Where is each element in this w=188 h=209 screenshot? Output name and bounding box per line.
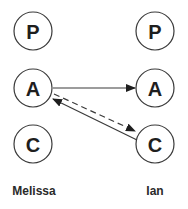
arrow-adult-to-child-dashed-icon bbox=[54, 94, 135, 131]
melissa-label: Melissa bbox=[12, 184, 56, 198]
parent-letter: P bbox=[26, 21, 39, 43]
melissa-adult-node: A bbox=[14, 69, 52, 107]
parent-letter: P bbox=[148, 21, 161, 43]
arrow-child-to-adult-icon bbox=[53, 99, 137, 140]
ian-child-node: C bbox=[136, 125, 174, 163]
melissa-child-node: C bbox=[14, 125, 52, 163]
transactions bbox=[53, 88, 137, 140]
melissa-parent-node: P bbox=[14, 12, 52, 50]
child-letter: C bbox=[26, 134, 40, 156]
ian-parent-node: P bbox=[136, 12, 174, 50]
adult-letter: A bbox=[26, 78, 40, 100]
ian-label: Ian bbox=[146, 184, 163, 198]
melissa-column: P A C Melissa bbox=[12, 12, 56, 198]
ego-state-diagram: P A C Melissa P A C Ian bbox=[0, 0, 188, 209]
ian-adult-node: A bbox=[136, 69, 174, 107]
child-letter: C bbox=[148, 134, 162, 156]
ian-column: P A C Ian bbox=[136, 12, 174, 198]
adult-letter: A bbox=[148, 78, 162, 100]
